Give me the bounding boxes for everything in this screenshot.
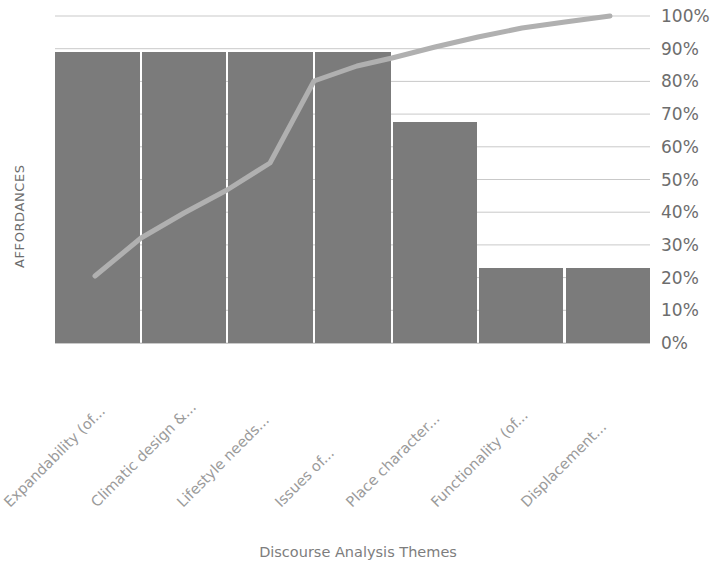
chart-canvas: 100% 90% 80% 70% 60% 50% 40% 30% 20% 10%…: [0, 0, 717, 575]
ytick-label-30: 30%: [661, 235, 699, 255]
pareto-chart: 100% 90% 80% 70% 60% 50% 40% 30% 20% 10%…: [0, 0, 717, 575]
bar-issues-of: [315, 52, 391, 343]
bar-expandability: [55, 52, 140, 343]
bar-functionality: [479, 268, 563, 343]
ytick-label-0: 0%: [661, 333, 688, 353]
ytick-label-10: 10%: [661, 300, 699, 320]
ytick-label-40: 40%: [661, 202, 699, 222]
x-axis-title: Discourse Analysis Themes: [259, 544, 457, 560]
ytick-label-70: 70%: [661, 104, 699, 124]
ytick-label-90: 90%: [661, 39, 699, 59]
bar-displacement: [566, 268, 650, 343]
y-axis-title: AFFORDANCES: [12, 164, 27, 268]
bar-lifestyle-needs: [228, 52, 313, 343]
bar-place-character: [393, 122, 477, 343]
ytick-label-20: 20%: [661, 268, 699, 288]
ytick-label-80: 80%: [661, 71, 699, 91]
ytick-label-60: 60%: [661, 137, 699, 157]
ytick-label-100: 100%: [661, 6, 710, 26]
ytick-label-50: 50%: [661, 170, 699, 190]
